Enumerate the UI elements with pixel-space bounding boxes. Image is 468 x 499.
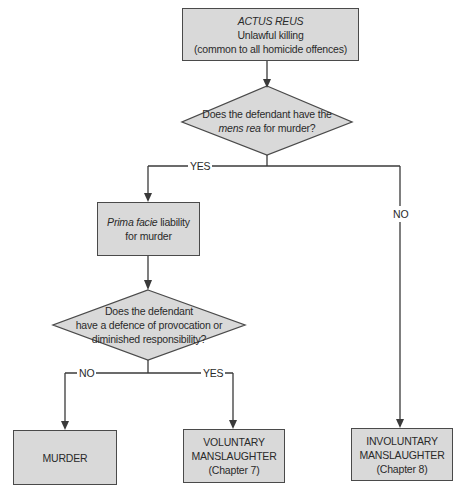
edge-label-mens-rea-yes: YES xyxy=(188,160,212,172)
prima-facie-line2: for murder xyxy=(125,229,171,243)
actus-reus-box: ACTUS REUS Unlawful killing (common to a… xyxy=(182,8,359,61)
connector-lines xyxy=(0,0,468,499)
mens-rea-question-rest: for murder? xyxy=(261,122,316,134)
voluntary-line1: VOLUNTARY xyxy=(203,435,264,449)
defence-question-line1: Does the defendant xyxy=(105,304,193,318)
actus-reus-line2: (common to all homicide offences) xyxy=(194,42,347,56)
decision-mens-rea: Does the defendant have the mens rea for… xyxy=(192,104,342,138)
decision-defence: Does the defendant have a defence of pro… xyxy=(68,302,230,348)
voluntary-line3: (Chapter 7) xyxy=(209,463,260,477)
prima-facie-line1: Prima facie liability xyxy=(107,215,190,229)
actus-reus-heading: ACTUS REUS xyxy=(238,14,304,28)
involuntary-line3: (Chapter 8) xyxy=(377,462,428,476)
voluntary-manslaughter-box: VOLUNTARY MANSLAUGHTER (Chapter 7) xyxy=(183,429,285,483)
mens-rea-question-line1: Does the defendant have the xyxy=(202,107,331,121)
prima-facie-box: Prima facie liability for murder xyxy=(97,202,200,256)
edge-label-defence-no: NO xyxy=(77,367,96,379)
involuntary-manslaughter-box: INVOLUNTARY MANSLAUGHTER (Chapter 8) xyxy=(351,428,453,481)
murder-box: MURDER xyxy=(13,430,117,485)
prima-facie-rest: liability xyxy=(157,216,189,228)
involuntary-line1: INVOLUNTARY xyxy=(366,434,438,448)
involuntary-line2: MANSLAUGHTER xyxy=(359,448,444,462)
prima-facie-term: Prima facie xyxy=(107,216,157,228)
edge-label-defence-yes: YES xyxy=(201,367,225,379)
murder-label: MURDER xyxy=(43,451,88,465)
edge-label-mens-rea-no: NO xyxy=(392,206,409,222)
defence-question-line2: have a defence of provocation or xyxy=(76,318,223,332)
mens-rea-term: mens rea xyxy=(219,122,261,134)
voluntary-line2: MANSLAUGHTER xyxy=(191,449,276,463)
mens-rea-question-line2: mens rea for murder? xyxy=(219,121,316,135)
actus-reus-line1: Unlawful killing xyxy=(237,28,303,42)
defence-question-line3: diminished responsibility? xyxy=(92,332,206,346)
